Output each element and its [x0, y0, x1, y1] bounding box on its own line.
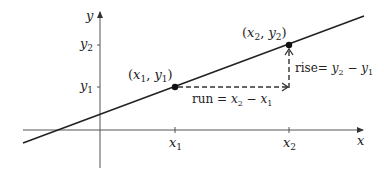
- rise-label: rise= y2 − y1: [295, 61, 373, 77]
- y-axis-label: y: [85, 8, 94, 23]
- line: [23, 16, 364, 143]
- y2-tick-label: y2: [79, 36, 93, 53]
- point-2: [286, 42, 292, 48]
- x2-tick-label: x2: [283, 135, 296, 152]
- point-2-label: (x2, y2): [242, 25, 287, 42]
- point-1: [172, 84, 178, 90]
- slope-diagram: x y x1 x2 y1 y2 (x1, y1) (x2, y2) run = …: [0, 0, 384, 177]
- x1-tick-label: x1: [169, 135, 182, 152]
- run-label: run = x2 − x1: [192, 92, 272, 108]
- x-axis-label: x: [357, 133, 365, 148]
- y1-tick-label: y1: [79, 78, 93, 95]
- point-1-label: (x1, y1): [128, 67, 173, 84]
